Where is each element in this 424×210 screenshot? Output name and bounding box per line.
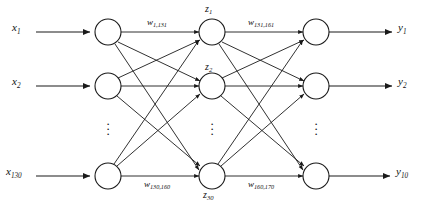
- weight-label-input-bottom: w130,160: [144, 180, 170, 189]
- input-to-hidden-edges: [114, 32, 200, 176]
- input-label-130: x130: [6, 166, 22, 177]
- weight-label-hidden-top: w131,161: [248, 18, 274, 27]
- output-node-10: [303, 163, 329, 189]
- input-node-130: [95, 163, 121, 189]
- input-node-1: [95, 19, 121, 45]
- hidden-to-output-edges: [218, 32, 304, 176]
- output-layer-nodes: [303, 19, 329, 189]
- hidden-node-2: [199, 73, 225, 99]
- output-layer-ellipsis: ...: [314, 118, 318, 134]
- output-feed-arrows: [329, 32, 392, 176]
- output-label-2: y2: [398, 76, 406, 87]
- output-label-1: y1: [398, 22, 406, 33]
- weight-label-hidden-bottom: w160,170: [248, 180, 274, 189]
- neural-network-diagram: x1 x2 x130 z1 z2 z30 y1 y2 y10 w1,131 w1…: [0, 0, 424, 210]
- hidden-label-30: z30: [203, 190, 214, 200]
- network-graph-canvas: [0, 0, 424, 210]
- hidden-layer-nodes: [199, 19, 225, 189]
- output-node-2: [303, 73, 329, 99]
- weight-label-input-top: w1,131: [147, 18, 167, 27]
- input-label-2: x2: [12, 76, 20, 87]
- input-feed-arrows: [36, 32, 90, 176]
- input-layer-ellipsis: ...: [106, 118, 110, 134]
- hidden-layer-ellipsis: ...: [210, 118, 214, 134]
- hidden-label-1: z1: [205, 4, 212, 14]
- hidden-node-1: [199, 19, 225, 45]
- output-label-10: y10: [396, 166, 408, 177]
- hidden-node-30: [199, 163, 225, 189]
- input-node-2: [95, 73, 121, 99]
- input-label-1: x1: [12, 22, 20, 33]
- hidden-label-2: z2: [205, 62, 212, 72]
- output-node-1: [303, 19, 329, 45]
- input-layer-nodes: [95, 19, 121, 189]
